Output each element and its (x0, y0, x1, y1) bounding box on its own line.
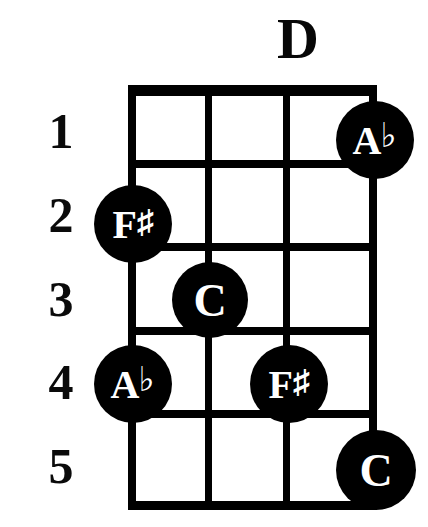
note-dot-fret4-string3[interactable]: F♯ (250, 345, 328, 423)
sharp-icon: ♯ (293, 365, 310, 399)
note-dot-fret5-string4[interactable]: C (336, 430, 416, 510)
note-letter: F (113, 205, 137, 245)
note-letter: A (111, 365, 140, 405)
sharp-icon: ♯ (137, 205, 154, 239)
string-line-1 (128, 85, 136, 510)
fretboard-nut (128, 85, 377, 96)
chord-diagram-page: D 1 2 3 4 5 A♭ F♯ C A♭ F♯ C (0, 0, 428, 527)
flat-icon: ♭ (138, 363, 154, 397)
string-line-3 (283, 85, 290, 510)
note-letter: F (269, 365, 293, 405)
note-letter: A (353, 121, 382, 161)
note-dot-fret1-string4[interactable]: A♭ (336, 101, 414, 179)
note-letter: C (193, 278, 226, 324)
fret-line-3 (128, 327, 377, 335)
note-dot-fret2-string1[interactable]: F♯ (94, 185, 172, 263)
fret-line-1 (128, 160, 377, 168)
flat-icon: ♭ (380, 119, 396, 153)
fret-line-4 (128, 410, 377, 418)
note-letter: C (359, 448, 392, 494)
note-dot-fret4-string1[interactable]: A♭ (94, 345, 172, 423)
note-dot-fret3-string2[interactable]: C (172, 262, 248, 338)
fret-line-5 (128, 501, 377, 510)
